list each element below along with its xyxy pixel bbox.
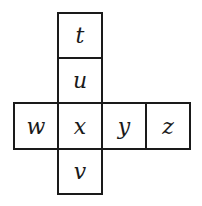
face-v: v xyxy=(57,148,103,195)
face-u: u xyxy=(57,57,103,104)
face-y: y xyxy=(101,102,147,150)
face-label: w xyxy=(27,114,46,139)
face-z: z xyxy=(145,102,191,150)
face-label: v xyxy=(74,159,86,184)
face-x: x xyxy=(57,102,103,150)
face-label: z xyxy=(162,114,174,139)
face-label: y xyxy=(118,114,130,139)
face-t: t xyxy=(57,12,103,59)
face-label: t xyxy=(76,23,85,48)
face-label: x xyxy=(74,114,86,139)
face-w: w xyxy=(13,102,59,150)
face-label: u xyxy=(73,68,87,93)
